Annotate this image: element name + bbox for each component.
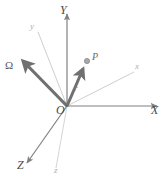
omega-vector-line bbox=[23, 61, 67, 106]
label-y-axis-rotating: y bbox=[30, 22, 34, 31]
point-p-marker bbox=[84, 58, 89, 63]
label-y-axis-fixed: Y bbox=[60, 4, 67, 16]
label-z-axis-rotating: z bbox=[54, 166, 58, 175]
label-origin: O bbox=[56, 104, 65, 116]
diagram-canvas bbox=[0, 0, 166, 182]
label-z-axis-fixed: Z bbox=[17, 159, 24, 171]
rotating-axes-group bbox=[38, 32, 134, 168]
label-position-vector-r: r bbox=[74, 84, 78, 93]
fixed-axes-group bbox=[27, 14, 157, 163]
y-axis-rotating-line bbox=[38, 32, 67, 106]
label-x-axis-rotating: x bbox=[135, 62, 139, 71]
label-x-axis-fixed: X bbox=[151, 104, 158, 116]
origin-marker bbox=[66, 105, 68, 107]
vector-diagram-figure: Y X Z y x z Ω r P O bbox=[0, 0, 166, 182]
label-point-p: P bbox=[92, 52, 98, 62]
label-omega-vector: Ω bbox=[5, 60, 13, 71]
